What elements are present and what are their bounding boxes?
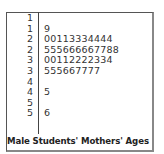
stem: 3 <box>0 66 33 77</box>
leaves: 6 <box>44 108 50 119</box>
stem: 1 <box>0 13 33 24</box>
stem-leaf-row: 5 <box>0 98 150 109</box>
stem-leaf-row: 1 <box>0 13 150 24</box>
stem-leaf-rows: 1 1 9 2 00113334444 2 555666667788 3 001… <box>0 13 150 119</box>
stem-leaf-row: 5 6 <box>0 108 150 119</box>
leaves: 555667777 <box>44 66 100 77</box>
stem: 5 <box>0 108 33 119</box>
stem-leaf-row: 3 555667777 <box>0 66 150 77</box>
stem-leaf-row: 4 5 <box>0 87 150 98</box>
stem-leaf-row: 4 <box>0 77 150 88</box>
chart-title: Male Students' Mothers' Ages <box>7 136 149 146</box>
leaves: 5 <box>44 87 50 98</box>
